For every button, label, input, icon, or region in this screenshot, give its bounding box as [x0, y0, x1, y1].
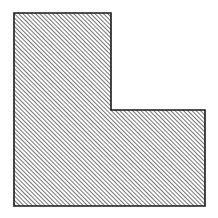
figure-canvas	[0, 0, 218, 218]
polygon-figure-svg	[0, 0, 218, 218]
